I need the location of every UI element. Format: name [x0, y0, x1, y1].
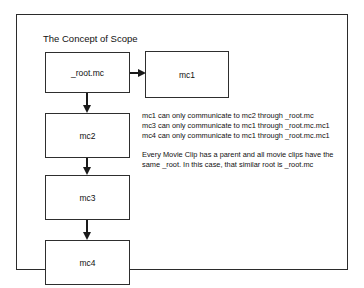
diagram-frame: The Concept of Scope _root.mc mc1 mc2 mc… [16, 14, 348, 270]
node-mc2-label: mc2 [79, 131, 95, 141]
annotation-rule-1: mc1 can only communicate to mc2 through … [142, 111, 358, 121]
node-mc1: mc1 [145, 51, 229, 98]
arrow-mc2-to-mc3-icon [86, 158, 88, 168]
node-mc3: mc3 [45, 175, 130, 220]
annotation-note-line-2: same _root. In this case, that similar r… [142, 160, 358, 170]
node-mc4-label: mc4 [79, 258, 95, 268]
annotation-rule-3: mc4 can only communicate to mc1 through … [142, 131, 358, 141]
node-mc1-label: mc1 [179, 70, 195, 80]
annotations: mc1 can only communicate to mc2 through … [142, 111, 358, 170]
arrow-root-to-mc1-icon [130, 72, 138, 74]
node-mc4: mc4 [45, 240, 130, 285]
annotation-note-line-1: Every Movie Clip has a parent and all mo… [142, 150, 358, 160]
annotation-rule-2: mc3 can only communicate to mc1 through … [142, 121, 358, 131]
annotation-rules: mc1 can only communicate to mc2 through … [142, 111, 358, 141]
annotation-note: Every Movie Clip has a parent and all mo… [142, 150, 358, 170]
arrow-root-to-mc2-icon [86, 93, 88, 106]
node-root-mc: _root.mc [45, 52, 130, 93]
node-mc2: mc2 [45, 113, 130, 158]
arrow-mc3-to-mc4-icon [86, 220, 88, 233]
diagram-title: The Concept of Scope [43, 33, 138, 45]
node-mc3-label: mc3 [79, 193, 95, 203]
node-root-mc-label: _root.mc [71, 68, 104, 78]
